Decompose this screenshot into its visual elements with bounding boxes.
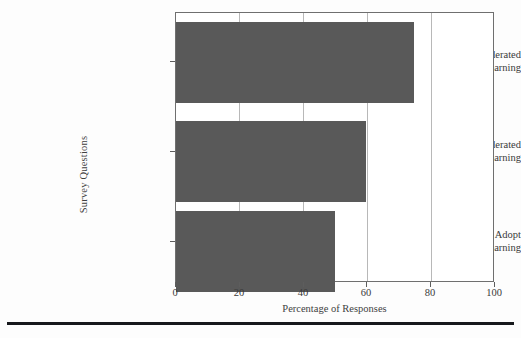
bar-willingness[interactable]: [176, 211, 335, 292]
plot-area: [175, 12, 494, 282]
x-tick-label-5: 100: [474, 287, 514, 298]
x-tick-label-0: 0: [155, 287, 195, 298]
y-axis-title: Survey Questions: [78, 90, 89, 260]
bar-awareness[interactable]: [176, 22, 414, 103]
x-tick-label-1: 20: [219, 287, 259, 298]
x-tick-label-4: 80: [410, 287, 450, 298]
x-tick-label-3: 60: [346, 287, 386, 298]
gridline-80: [431, 13, 432, 281]
x-axis-title: Percentage of Responses: [175, 303, 494, 314]
bar-acceptance[interactable]: [176, 121, 366, 202]
page-horizontal-rule: [7, 322, 514, 325]
figure: Survey Questions Awareness of Federated …: [0, 0, 521, 338]
x-tick-label-2: 40: [283, 287, 323, 298]
